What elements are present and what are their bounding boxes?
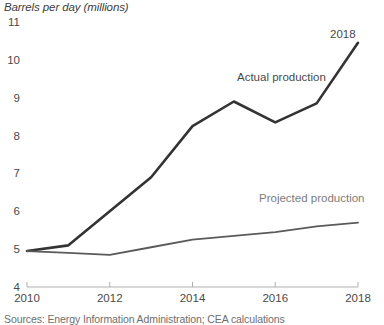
annotation-actual-production: Actual production [237,71,326,83]
axis-lines [27,282,358,287]
annotation-year-2018: 2018 [330,28,356,40]
annotation-projected-production: Projected production [259,192,364,204]
source-note: Sources: Energy Information Administrati… [4,313,285,325]
